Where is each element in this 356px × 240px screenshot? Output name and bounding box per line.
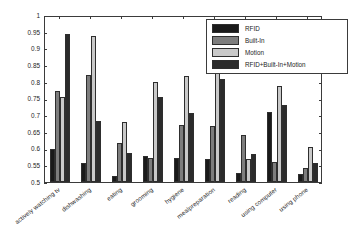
- y-tick-mark: [44, 133, 47, 134]
- y-tick-mark-right: [319, 166, 322, 167]
- x-tick-mark: [183, 180, 184, 183]
- y-tick-label: 0.85: [0, 63, 40, 69]
- y-tick-label: 0.75: [0, 96, 40, 102]
- y-tick-mark-right: [319, 83, 322, 84]
- x-tick-mark: [90, 180, 91, 183]
- bar: [96, 121, 101, 182]
- y-tick-mark-right: [319, 16, 322, 17]
- legend-label: RFID: [245, 24, 260, 33]
- y-tick-mark-right: [319, 100, 322, 101]
- bar-group: [76, 17, 107, 182]
- x-tick-mark: [121, 180, 122, 183]
- bar: [127, 153, 132, 182]
- x-tick-mark: [214, 180, 215, 183]
- bar: [251, 154, 256, 182]
- y-tick-mark: [44, 166, 47, 167]
- legend-item: RFID+Built-In+Motion: [212, 60, 346, 69]
- bar: [189, 113, 194, 182]
- y-tick-label: 0.9: [0, 46, 40, 52]
- y-tick-label: 0.95: [0, 30, 40, 36]
- legend-label: Built-In: [245, 36, 265, 45]
- bar-group: [45, 17, 76, 182]
- bar: [158, 97, 163, 182]
- y-tick-mark: [44, 183, 47, 184]
- y-tick-mark: [44, 83, 47, 84]
- y-tick-label: 0.65: [0, 130, 40, 136]
- x-tick-mark-top: [90, 16, 91, 19]
- y-tick-label: 1: [0, 13, 40, 19]
- y-tick-label: 0.55: [0, 163, 40, 169]
- y-tick-mark-right: [319, 116, 322, 117]
- x-tick-mark: [59, 180, 60, 183]
- bar: [313, 163, 318, 182]
- legend-item: RFID: [212, 24, 346, 33]
- x-tick-mark-top: [152, 16, 153, 19]
- legend-item: Motion: [212, 48, 346, 57]
- y-tick-mark-right: [319, 183, 322, 184]
- y-tick-label: 0.6: [0, 146, 40, 152]
- y-tick-mark: [44, 150, 47, 151]
- y-tick-mark: [44, 66, 47, 67]
- y-tick-mark: [44, 33, 47, 34]
- x-tick-mark: [307, 180, 308, 183]
- bar: [220, 79, 225, 182]
- y-tick-mark: [44, 49, 47, 50]
- y-tick-label: 0.7: [0, 113, 40, 119]
- chart-legend: RFIDBuilt-InMotionRFID+Built-In+Motion: [206, 19, 348, 74]
- legend-label: Motion: [245, 48, 264, 57]
- legend-swatch: [212, 48, 239, 57]
- x-tick-mark: [152, 180, 153, 183]
- legend-item: Built-In: [212, 36, 346, 45]
- y-tick-mark: [44, 116, 47, 117]
- bar: [65, 34, 70, 182]
- x-tick-mark-top: [121, 16, 122, 19]
- bar-group: [169, 17, 200, 182]
- x-tick-mark-top: [183, 16, 184, 19]
- legend-swatch: [212, 36, 239, 45]
- bar-group: [107, 17, 138, 182]
- bar-group: [138, 17, 169, 182]
- bar: [282, 105, 287, 182]
- legend-swatch: [212, 60, 239, 69]
- legend-label: RFID+Built-In+Motion: [245, 60, 306, 69]
- x-tick-mark: [245, 180, 246, 183]
- y-tick-mark-right: [319, 133, 322, 134]
- x-tick-mark: [276, 180, 277, 183]
- bar-chart-figure: Average ROC Area 0.50.550.60.650.70.750.…: [0, 0, 356, 240]
- y-tick-mark: [44, 16, 47, 17]
- y-tick-label: 0.8: [0, 80, 40, 86]
- y-tick-label: 0.5: [0, 180, 40, 186]
- x-tick-mark-top: [59, 16, 60, 19]
- y-tick-mark-right: [319, 150, 322, 151]
- legend-swatch: [212, 24, 239, 33]
- y-tick-mark: [44, 100, 47, 101]
